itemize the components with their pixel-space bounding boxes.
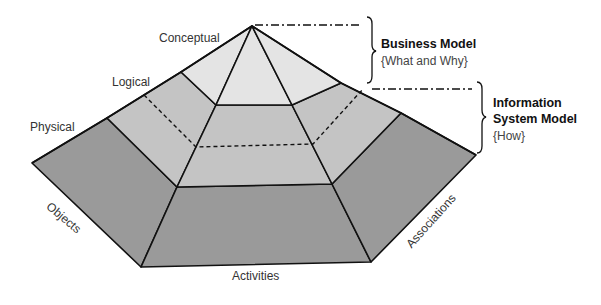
face-label-activities: Activities: [232, 270, 279, 282]
business-model-bracket: [367, 17, 376, 83]
information-model-title-line1: Information: [493, 97, 562, 110]
business-model-subtitle: {What and Why}: [381, 55, 468, 67]
information-model-subtitle: {How}: [493, 130, 525, 142]
pyramid-diagram: [0, 0, 601, 305]
information-model-title-line2: System Model: [493, 113, 577, 126]
tier-label-logical: Logical: [112, 76, 150, 88]
information-model-bracket: [477, 82, 486, 153]
physical-activities-face: [141, 184, 371, 267]
tier-label-physical: Physical: [30, 121, 75, 133]
business-model-title: Business Model: [381, 38, 476, 51]
tier-label-conceptual: Conceptual: [159, 32, 220, 44]
